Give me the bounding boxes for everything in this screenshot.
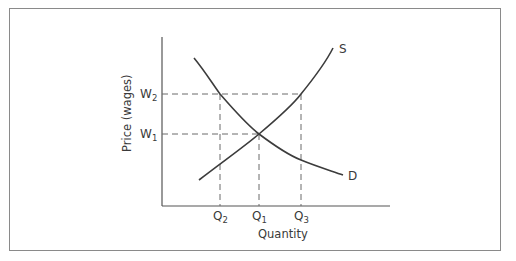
supply-curve xyxy=(199,48,333,180)
demand-label: D xyxy=(348,169,357,183)
q3-tick-label: Q3 xyxy=(294,209,309,225)
w1-tick-label: W1 xyxy=(140,127,157,143)
w2-tick-label: W2 xyxy=(140,87,157,103)
supply-demand-chart: S D W2 W1 Q2 Q1 Q3 Quantity Price (wages… xyxy=(0,0,516,261)
y-axis-title: Price (wages) xyxy=(120,74,134,152)
supply-label: S xyxy=(339,42,347,56)
demand-curve xyxy=(194,58,343,175)
x-axis-title: Quantity xyxy=(258,227,308,241)
reference-lines xyxy=(162,94,301,206)
q1-tick-label: Q1 xyxy=(252,209,267,225)
q2-tick-label: Q2 xyxy=(213,209,228,225)
